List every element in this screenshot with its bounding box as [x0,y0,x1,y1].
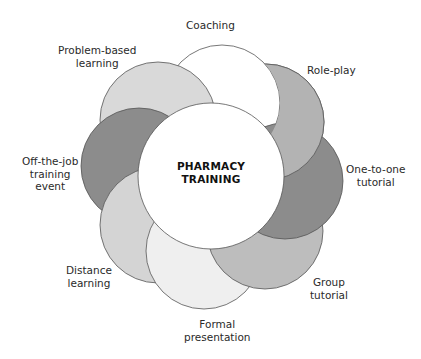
center-title: PHARMACY TRAINING [151,160,271,186]
label-formal-presentation: Formal presentation [184,318,250,343]
center-title-line2: TRAINING [151,173,271,186]
label-role-play: Role-play [307,64,356,77]
label-group-tutorial: Group tutorial [310,276,348,301]
label-problem-based-learning: Problem-based learning [58,44,136,69]
label-coaching: Coaching [186,19,235,32]
label-one-to-one-tutorial: One-to-one tutorial [346,163,405,188]
label-distance-learning: Distance learning [66,264,112,289]
label-off-the-job-training-event: Off-the-job training event [22,155,78,193]
center-title-line1: PHARMACY [151,160,271,173]
